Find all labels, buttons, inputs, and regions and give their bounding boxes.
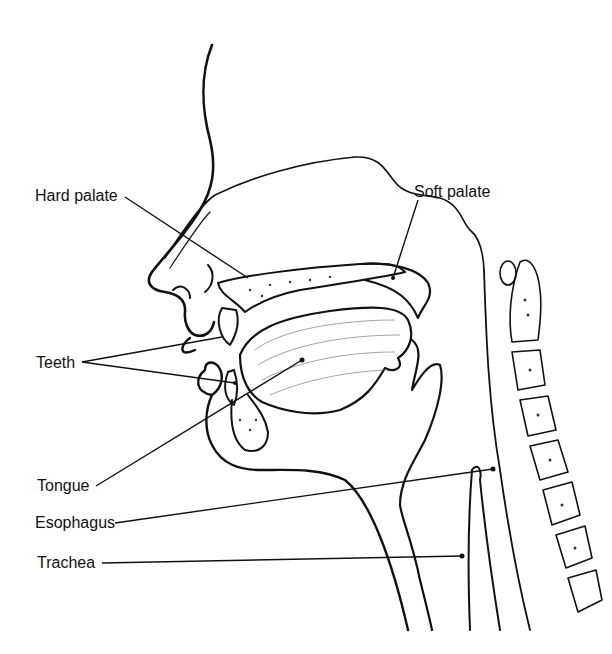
texture-dots	[239, 276, 577, 550]
label-teeth: Teeth	[36, 355, 75, 371]
chin-neck-outline	[206, 395, 408, 630]
label-soft-palate: Soft palate	[414, 184, 491, 200]
anatomy-diagram: Hard palate Soft palate Teeth Tongue Eso…	[0, 0, 612, 654]
trachea-tube	[472, 467, 500, 630]
leader-lines	[82, 197, 493, 563]
label-esophagus: Esophagus	[35, 515, 115, 531]
label-hard-palate: Hard palate	[35, 188, 118, 204]
upper-tooth	[219, 308, 238, 345]
leader-endpoints	[233, 276, 496, 559]
label-tongue: Tongue	[37, 478, 90, 494]
upper-lip	[182, 338, 195, 353]
hard-palate-bone	[218, 263, 405, 312]
label-trachea: Trachea	[37, 555, 95, 571]
pharynx-front	[400, 340, 442, 630]
tongue-hatching	[255, 320, 400, 395]
